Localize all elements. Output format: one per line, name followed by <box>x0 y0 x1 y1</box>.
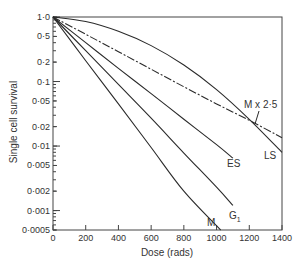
y-tick-label: 0·05 <box>32 96 50 106</box>
series-line-g1 <box>53 17 233 205</box>
x-tick-label: 0 <box>50 233 55 243</box>
y-tick-label: 0·005 <box>27 160 50 170</box>
y-tick-label: 0·002 <box>27 186 50 196</box>
y-tick-label: 0·2 <box>37 57 50 67</box>
series-line-ls <box>53 17 282 152</box>
x-axis-label: Dose (rads) <box>141 247 193 258</box>
series-line-m-x-2-5 <box>53 17 282 138</box>
plot-frame <box>53 17 282 230</box>
series-line-m <box>53 17 221 230</box>
y-tick-label: 0·0005 <box>22 225 50 235</box>
label-mx25: M x 2·5 <box>244 99 278 110</box>
x-tick-label: 600 <box>144 233 159 243</box>
series-lines <box>53 17 282 230</box>
x-tick-label: 200 <box>78 233 93 243</box>
y-tick-label: 0·001 <box>27 206 50 216</box>
x-tick-label: 1200 <box>239 233 259 243</box>
y-tick-label: 0·1 <box>37 77 50 87</box>
y-tick-label: 0·02 <box>32 122 50 132</box>
x-tick-label: 400 <box>111 233 126 243</box>
y-axis-label: Single cell survival <box>8 81 19 163</box>
survival-chart: 02004006008001000120014001·00·50·20·10·0… <box>0 0 303 263</box>
label-mx25-leader <box>255 111 259 124</box>
label-m: M <box>207 217 215 228</box>
x-tick-label: 1400 <box>272 233 292 243</box>
y-tick-label: 1·0 <box>37 12 50 22</box>
x-tick-label: 1000 <box>207 233 227 243</box>
label-es: ES <box>227 158 241 169</box>
x-tick-label: 800 <box>176 233 191 243</box>
y-tick-label: 0·5 <box>37 31 50 41</box>
y-tick-label: 0·01 <box>32 141 50 151</box>
label-ls: LS <box>264 150 277 161</box>
axes: 02004006008001000120014001·00·50·20·10·0… <box>22 12 292 243</box>
label-g1: G1 <box>229 210 241 223</box>
